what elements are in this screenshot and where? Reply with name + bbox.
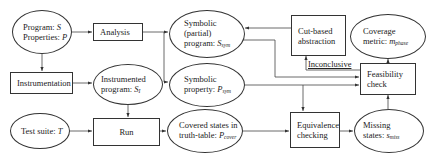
testsuite-label: Test suite: [21, 126, 58, 136]
coverage-line1: Coverage [363, 26, 408, 36]
symprop-line1: Symbolic [184, 74, 231, 84]
instrumentation-node: Instrumentation [10, 72, 73, 94]
equivalence-checking-node: Equivalence checking [290, 112, 340, 148]
cut-line2: abstraction [298, 36, 335, 46]
instrprog-line2: program: [101, 84, 134, 94]
equiv-line1: Equivalence [297, 120, 339, 130]
feasibility-check-node: Feasibility check [360, 63, 416, 95]
program-var: S [57, 22, 61, 32]
instrprog-line1: Instrumented [101, 74, 146, 84]
symprop-sub: sym [223, 88, 232, 94]
inconclusive-label: Inconclusive [308, 59, 351, 69]
instrumentation-label: Instrumentation [17, 78, 71, 88]
analysis-node: Analysis [93, 23, 143, 41]
covered-line1: Covered states in [179, 120, 238, 130]
analysis-label: Analysis [100, 27, 130, 37]
feasibility-line1: Feasibility [367, 69, 403, 79]
symprog-sub: sym [222, 42, 231, 48]
testsuite-var: T [58, 126, 63, 136]
covered-sub: cover [224, 134, 236, 140]
cut-based-abstraction-node: Cut-based abstraction [291, 15, 346, 56]
run-label: Run [119, 127, 133, 137]
covered-line2: truth-table: [179, 130, 219, 140]
run-node: Run [93, 118, 160, 146]
properties-label: Properties: [23, 32, 62, 42]
missing-line2: states: [363, 130, 386, 140]
program-label: Program: [23, 22, 57, 32]
symprog-line2: (partial) [184, 28, 230, 38]
instrumented-program-node: Instrumented program: SI [93, 64, 163, 105]
program-properties-node: Program: S Properties: P [12, 10, 72, 54]
equiv-line2: checking [297, 130, 339, 140]
missing-sub: miss [390, 134, 400, 140]
coverage-sub: phase [395, 40, 408, 46]
covered-states-node: Covered states in truth-table: Pcover [167, 109, 243, 153]
coverage-line2: metric: [363, 36, 389, 46]
symprog-line3: program: [184, 38, 217, 48]
missing-states-node: Missing states: smiss [354, 109, 424, 153]
instrprog-sub: I [139, 88, 141, 94]
missing-line1: Missing [363, 120, 399, 130]
feasibility-line2: check [367, 79, 403, 89]
properties-var: P [62, 32, 67, 42]
coverage-metric-node: Coverage metric: mphase [350, 14, 426, 59]
symbolic-program-node: Symbolic (partial) program: Ssym [169, 10, 245, 58]
symprog-line1: Symbolic [184, 18, 230, 28]
edge-analysis-symprop [164, 32, 168, 82]
symbolic-property-node: Symbolic property: Psym [169, 63, 245, 107]
symprop-line2: property: [184, 84, 217, 94]
test-suite-node: Test suite: T [10, 113, 70, 149]
cut-line1: Cut-based [298, 26, 335, 36]
